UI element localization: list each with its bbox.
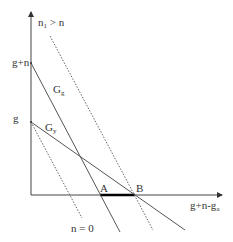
label-g-g-main: G <box>53 83 61 95</box>
point-g <box>30 121 32 123</box>
point-label-b: B <box>136 183 143 194</box>
label-g-y: Gy <box>45 122 56 135</box>
label-g-y-sub: y <box>53 127 57 135</box>
label-g-y-main: G <box>45 121 53 133</box>
x-axis-label-sub: a <box>216 205 219 213</box>
curve-g-g <box>31 63 120 232</box>
point-label-a: A <box>100 183 108 194</box>
curve-n0-dotted <box>31 122 82 218</box>
y-tick-label-g: g <box>13 113 19 124</box>
label-n1-gt-n: n1 > n <box>38 17 64 30</box>
x-axis-label: g+n-ga <box>190 200 219 213</box>
label-n1-rest: > n <box>47 16 64 28</box>
label-g-g: Gg <box>53 84 64 97</box>
point-g-plus-n <box>30 62 32 64</box>
label-n-equals-0: n = 0 <box>71 223 94 234</box>
curve-g-y <box>31 122 185 230</box>
y-tick-label-g-plus-n: g+n <box>12 57 29 68</box>
label-g-g-sub: g <box>61 89 65 97</box>
curve-n1-dotted <box>50 36 153 230</box>
x-axis-label-main: g+n-g <box>190 199 216 211</box>
